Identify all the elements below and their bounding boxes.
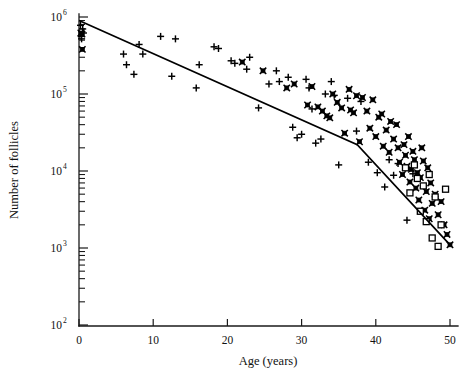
- svg-text:10: 10: [51, 319, 63, 331]
- svg-text:3: 3: [63, 239, 67, 248]
- y-tick-label-1e4: 104: [51, 162, 68, 177]
- data-point-plus: [172, 35, 179, 42]
- data-point-square: [426, 172, 432, 178]
- data-point-plus: [168, 73, 175, 80]
- data-point-square: [432, 194, 438, 200]
- data-point-plus: [243, 66, 250, 73]
- data-point-plus: [265, 80, 272, 87]
- y-tick-label-1e2: 102: [51, 316, 68, 331]
- data-point-star: [380, 143, 386, 149]
- data-point-star: [413, 185, 419, 191]
- x-axis-tick-labels: 01020304050: [76, 334, 456, 346]
- data-point-star: [327, 115, 333, 121]
- data-point-plus: [335, 161, 342, 168]
- data-point-star: [420, 158, 426, 164]
- svg-text:4: 4: [63, 162, 67, 171]
- data-point-star: [399, 171, 405, 177]
- data-point-plus: [157, 33, 164, 40]
- svg-text:6: 6: [63, 8, 67, 17]
- data-point-star: [393, 121, 399, 127]
- svg-text:5: 5: [63, 85, 67, 94]
- svg-text:10: 10: [51, 11, 63, 23]
- data-point-plus: [139, 51, 146, 58]
- axes: [79, 14, 458, 326]
- x-tick-label-40: 40: [370, 334, 382, 346]
- data-point-plus: [130, 71, 137, 78]
- data-point-star: [364, 108, 370, 114]
- svg-text:10: 10: [51, 165, 63, 177]
- data-point-plus: [390, 172, 397, 179]
- data-point-plus: [276, 78, 283, 85]
- data-point-plus: [381, 183, 388, 190]
- data-point-plus: [328, 78, 335, 85]
- data-point-square: [443, 186, 449, 192]
- data-point-star: [395, 145, 401, 151]
- data-point-star: [79, 31, 85, 37]
- data-point-square: [435, 243, 441, 249]
- data-point-star: [428, 180, 434, 186]
- y-tick-label-1e3: 103: [51, 239, 68, 254]
- data-markers-layer: [77, 22, 453, 250]
- data-point-star: [386, 149, 392, 155]
- data-point-plus: [289, 124, 296, 131]
- data-point-star: [341, 130, 347, 136]
- x-axis-title: Age (years): [239, 354, 298, 368]
- data-point-star: [239, 59, 245, 65]
- data-point-star: [444, 231, 450, 237]
- data-point-plus: [374, 169, 381, 176]
- data-point-plus: [303, 76, 310, 83]
- data-point-star: [405, 133, 411, 139]
- data-point-star: [429, 200, 435, 206]
- data-point-plus: [298, 131, 305, 138]
- data-point-plus: [193, 84, 200, 91]
- data-point-plus: [353, 128, 360, 135]
- data-point-star: [338, 105, 344, 111]
- data-point-star: [346, 86, 352, 92]
- data-point-star: [79, 46, 85, 52]
- data-point-plus: [285, 74, 292, 81]
- data-point-star: [419, 145, 425, 151]
- plus-marker-series: [77, 22, 416, 224]
- x-tick-label-10: 10: [147, 334, 159, 346]
- data-point-star: [291, 81, 297, 87]
- data-point-star: [350, 110, 356, 116]
- data-point-square: [402, 165, 408, 171]
- data-point-plus: [294, 134, 301, 141]
- data-point-star: [379, 111, 385, 117]
- x-tick-label-50: 50: [444, 334, 456, 346]
- y-axis-minor-ticks: [79, 21, 85, 302]
- data-point-star: [410, 148, 416, 154]
- data-point-star: [359, 94, 365, 100]
- data-point-star: [396, 159, 402, 165]
- data-point-star: [425, 165, 431, 171]
- data-point-plus: [211, 43, 218, 50]
- data-point-square: [407, 190, 413, 196]
- data-point-star: [401, 141, 407, 147]
- x-tick-label-20: 20: [222, 334, 234, 346]
- data-point-star: [330, 91, 336, 97]
- data-point-star: [370, 97, 376, 103]
- data-point-plus: [344, 95, 351, 102]
- data-point-square: [414, 175, 420, 181]
- data-point-square: [420, 183, 426, 189]
- scatter-plot-canvas: 01020304050 102103104105106 Age (years) …: [0, 0, 470, 374]
- data-point-plus: [255, 104, 262, 111]
- y-tick-label-1e6: 106: [51, 8, 68, 23]
- data-point-star: [435, 212, 441, 218]
- x-tick-label-30: 30: [296, 334, 308, 346]
- data-point-star: [373, 133, 379, 139]
- follicle-count-figure: 01020304050 102103104105106 Age (years) …: [0, 0, 470, 374]
- x-axis-ticks: [79, 319, 450, 326]
- data-point-star: [334, 99, 340, 105]
- data-point-star: [390, 136, 396, 142]
- data-point-square: [438, 222, 444, 228]
- data-point-plus: [215, 45, 222, 52]
- data-point-star: [260, 68, 266, 74]
- data-point-star: [387, 118, 393, 124]
- filled-star-marker-series: [78, 30, 454, 248]
- data-point-square: [429, 235, 435, 241]
- data-point-star: [402, 152, 408, 158]
- data-point-star: [284, 85, 290, 91]
- data-point-plus: [246, 54, 253, 61]
- data-point-plus: [123, 61, 130, 68]
